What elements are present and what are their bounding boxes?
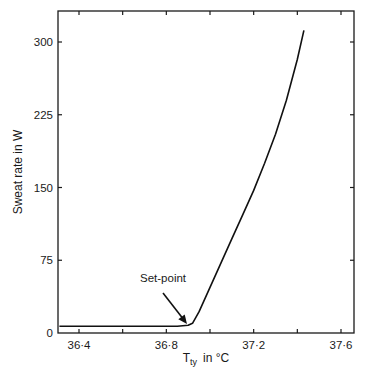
sweat-rate-chart: 075150225300 36·436·837·237·6 Set-point … bbox=[0, 0, 365, 376]
x-axis-title: Ttyin °C bbox=[183, 351, 230, 367]
x-tick-label: 36·8 bbox=[155, 339, 178, 351]
y-tick-label: 0 bbox=[47, 327, 53, 339]
x-tick-label: 37·2 bbox=[242, 339, 265, 351]
y-axis-ticks: 075150225300 bbox=[34, 36, 354, 339]
set-point-arrow-icon bbox=[163, 293, 187, 324]
y-tick-label: 150 bbox=[34, 182, 53, 194]
x-tick-label: 36·4 bbox=[67, 339, 91, 351]
x-tick-label: 37·6 bbox=[329, 339, 352, 351]
y-axis-title: Sweat rate in W bbox=[11, 129, 25, 214]
set-point-label: Set-point bbox=[140, 272, 187, 284]
x-axis-ticks: 36·436·837·237·6 bbox=[67, 11, 352, 351]
y-tick-label: 300 bbox=[34, 36, 53, 48]
y-tick-label: 225 bbox=[34, 109, 53, 121]
y-tick-label: 75 bbox=[40, 254, 53, 266]
plot-frame bbox=[58, 11, 354, 333]
